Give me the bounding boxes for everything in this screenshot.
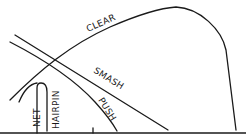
clear-label: CLEAR [85, 12, 117, 34]
smash-label: SMASH [92, 65, 126, 91]
push-trajectory [10, 42, 117, 131]
hairpin-label: HAIRPIN [51, 90, 61, 129]
net-shot-arc [19, 83, 37, 102]
net-label: NET [32, 108, 42, 127]
clear-trajectory [10, 7, 236, 130]
push-label: PUSH [96, 96, 118, 123]
shot-trajectory-diagram: CLEAR SMASH PUSH NET HAIRPIN [0, 0, 246, 140]
